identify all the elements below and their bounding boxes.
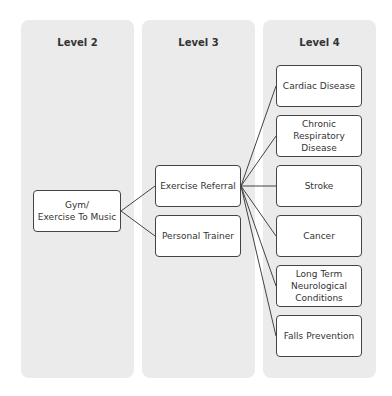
node-stroke[interactable]: Stroke	[276, 165, 362, 207]
node-personal-trainer[interactable]: Personal Trainer	[155, 215, 241, 257]
node-chronic-respiratory-disease[interactable]: Chronic Respiratory Disease	[276, 115, 362, 157]
node-falls-prevention[interactable]: Falls Prevention	[276, 315, 362, 357]
column-title-level-3: Level 3	[142, 37, 255, 48]
column-title-level-4: Level 4	[263, 37, 376, 48]
node-long-term-neurological-conditions[interactable]: Long Term Neurological Conditions	[276, 265, 362, 307]
column-title-level-2: Level 2	[21, 37, 134, 48]
node-cancer[interactable]: Cancer	[276, 215, 362, 257]
node-exercise-referral[interactable]: Exercise Referral	[155, 165, 241, 207]
node-gym-exercise-to-music[interactable]: Gym/ Exercise To Music	[33, 190, 121, 232]
node-cardiac-disease[interactable]: Cardiac Disease	[276, 65, 362, 107]
